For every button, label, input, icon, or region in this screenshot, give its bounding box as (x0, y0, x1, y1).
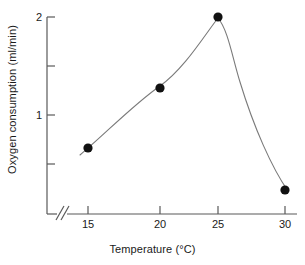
x-tick-label-25: 25 (212, 218, 224, 230)
data-point-25c (213, 12, 222, 21)
y-tick-label-1: 1 (30, 109, 42, 121)
x-tick-label-30: 30 (279, 218, 291, 230)
oxygen-consumption-line-chart (0, 0, 305, 265)
chart-figure: 2 1 15 20 25 30 Temperature (°C) Oxygen … (0, 0, 305, 265)
y-tick-label-2: 2 (30, 11, 42, 23)
x-axis-title: Temperature (°C) (0, 243, 305, 255)
data-point-15c (83, 143, 92, 152)
x-tick-label-20: 20 (154, 218, 166, 230)
data-curve (80, 18, 288, 191)
x-tick-label-15: 15 (82, 218, 94, 230)
y-axis-title: Oxygen consumption (ml/min) (6, 0, 22, 232)
data-point-20c (155, 83, 164, 92)
x-axis-break-icon (56, 206, 69, 220)
data-point-30c (280, 185, 289, 194)
